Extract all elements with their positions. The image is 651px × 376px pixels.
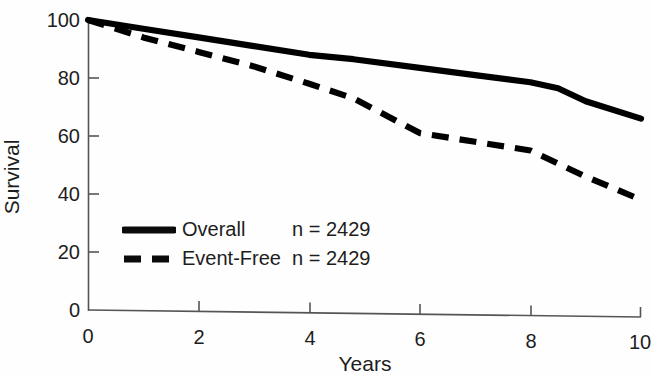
ytick-label-100: 100 bbox=[24, 9, 80, 32]
xtick-label-8: 8 bbox=[525, 330, 536, 353]
xtick-label-0: 0 bbox=[82, 325, 93, 348]
legend-row-overall: Overall n = 2429 bbox=[122, 215, 392, 244]
x-axis-line bbox=[89, 310, 642, 317]
xtick-label-2: 2 bbox=[193, 326, 204, 349]
y-axis-title: Survival bbox=[0, 127, 24, 227]
ytick-label-20: 20 bbox=[24, 241, 80, 264]
ytick-label-60: 60 bbox=[24, 125, 80, 148]
ytick-label-80: 80 bbox=[24, 67, 80, 90]
legend-label-overall: Overall bbox=[182, 218, 245, 241]
survival-curve-figure: 100 80 60 40 20 0 0 2 4 6 8 10 Survival … bbox=[0, 0, 651, 376]
ytick-label-0: 0 bbox=[24, 299, 80, 322]
xtick-label-6: 6 bbox=[414, 328, 425, 351]
legend-label-event-free: Event-Free bbox=[182, 247, 281, 270]
plot-canvas bbox=[0, 0, 651, 376]
xtick-label-10: 10 bbox=[629, 331, 651, 354]
xtick-label-4: 4 bbox=[304, 327, 315, 350]
ytick-label-40: 40 bbox=[24, 183, 80, 206]
x-axis-title: Years bbox=[339, 352, 392, 376]
legend-n-overall: n = 2429 bbox=[292, 218, 370, 241]
legend-row-event-free: Event-Free n = 2429 bbox=[122, 244, 392, 273]
event-free-survival-line bbox=[88, 20, 641, 200]
legend-solid-line-swatch bbox=[122, 220, 176, 240]
legend-n-event-free: n = 2429 bbox=[292, 247, 370, 270]
y-tick-marks bbox=[89, 20, 100, 252]
legend-dashed-line-swatch bbox=[122, 249, 176, 269]
chart-legend: Overall n = 2429 Event-Free n = 2429 bbox=[122, 215, 392, 273]
